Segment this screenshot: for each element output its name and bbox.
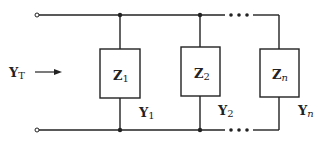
impedance-label-1: Z1 (113, 68, 129, 84)
arrow-right-icon (35, 69, 62, 75)
ellipsis-bottom (229, 128, 249, 132)
circuit-diagram: YT Z1 Y1 Z2 Y2 Zn Yn (0, 0, 319, 144)
node-dot (198, 13, 202, 17)
ellipsis-top (229, 13, 249, 17)
input-admittance-label: YT (8, 65, 25, 81)
admittance-label-2: Y2 (217, 103, 234, 119)
terminal-bottom (35, 128, 39, 132)
admittance-label-n: Yn (297, 103, 314, 119)
impedance-label-n: Zn (272, 67, 288, 83)
impedance-label-2: Z2 (194, 66, 210, 82)
node-dot (118, 13, 122, 17)
node-dot (118, 128, 122, 132)
node-dot (198, 128, 202, 132)
admittance-label-1: Y1 (138, 105, 155, 121)
terminal-top (35, 13, 39, 17)
